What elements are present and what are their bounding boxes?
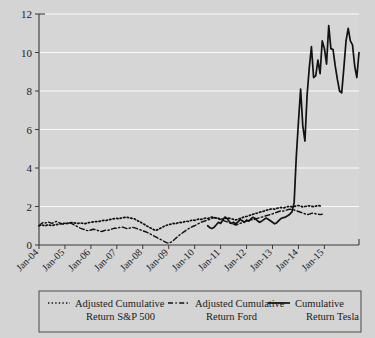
legend-label-line1: Cumulative	[295, 298, 344, 309]
cumulative-return-chart: 024681012 Jan-04Jan-05Jan-06Jan-07Jan-08…	[0, 0, 375, 338]
y-tick-label: 4	[27, 162, 33, 174]
y-tick-label: 10	[21, 47, 33, 59]
y-tick-label: 12	[21, 8, 32, 20]
legend-label-line2: Return Tesla	[306, 311, 359, 322]
chart-legend: Adjusted CumulativeReturn S&P 500Adjuste…	[39, 291, 361, 332]
legend-label-line2: Return S&P 500	[86, 311, 155, 322]
legend-label-line2: Return Ford	[206, 311, 258, 322]
y-tick-label: 2	[27, 201, 33, 213]
y-tick-label: 8	[27, 85, 33, 97]
chart-svg: 024681012 Jan-04Jan-05Jan-06Jan-07Jan-08…	[0, 0, 375, 338]
y-tick-label: 6	[27, 124, 33, 136]
legend-label-line1: Adjusted Cumulative	[75, 298, 165, 309]
